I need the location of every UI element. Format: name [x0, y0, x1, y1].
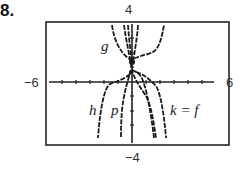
curve-intersection-point	[129, 59, 135, 65]
curve-label-h: h	[89, 102, 97, 119]
curve-intersection-point-2	[129, 70, 133, 74]
curve-label-k-equals-f: k = f	[170, 102, 198, 119]
ymin-label: −4	[125, 150, 140, 165]
curve-p	[121, 70, 131, 138]
curve-label-p: p	[111, 102, 119, 119]
xmax-label: 6	[226, 75, 233, 90]
ymax-label: 4	[125, 2, 132, 17]
curve-label-g: g	[101, 38, 109, 55]
curve-g	[112, 25, 164, 59]
xmin-label: −6	[24, 75, 39, 90]
